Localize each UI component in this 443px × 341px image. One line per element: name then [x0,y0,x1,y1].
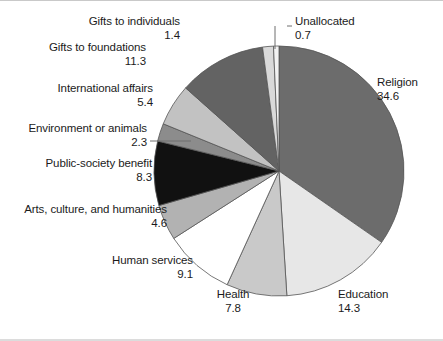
slice-label-name: Human services [0,254,193,268]
slice-label-value: 1.4 [0,29,180,43]
slice-label-arts-culture-and-humanities: Arts, culture, and humanities 4.6 [0,203,167,230]
slice-label-human-services: Human services 9.1 [0,254,193,281]
slice-label-name: Unallocated [295,15,435,29]
slice-label-value: 5.4 [0,96,153,110]
slice-label-religion: Religion 34.6 [377,76,443,103]
pie-chart-figure: Gifts to individuals 1.4 Unallocated 0.7… [0,0,443,341]
slice-label-value: 2.3 [0,136,147,150]
slice-label-education: Education 14.3 [338,288,438,315]
slice-label-value: 9.1 [0,268,193,282]
slice-label-name: Religion [377,76,443,90]
slice-label-value: 4.6 [0,217,167,231]
slice-label-name: Health [198,288,268,302]
slice-label-international-affairs: International affairs 5.4 [0,82,153,109]
slice-label-name: Gifts to foundations [0,41,146,55]
slice-label-gifts-to-individuals: Gifts to individuals 1.4 [0,15,180,42]
slice-label-name: Arts, culture, and humanities [0,203,167,217]
slice-label-value: 8.3 [0,171,152,185]
slice-label-unallocated: Unallocated 0.7 [295,15,435,42]
slice-label-name: Environment or animals [0,122,147,136]
slice-label-value: 11.3 [0,55,146,69]
slice-label-environment-or-animals: Environment or animals 2.3 [0,122,147,149]
slice-label-name: Gifts to individuals [0,15,180,29]
slice-label-gifts-to-foundations: Gifts to foundations 11.3 [0,41,146,68]
slice-label-value: 0.7 [295,29,435,43]
slice-label-value: 34.6 [377,90,443,104]
slice-label-value: 7.8 [198,302,268,316]
slice-label-name: Public-society benefit [0,157,152,171]
slice-label-health: Health 7.8 [198,288,268,315]
slice-label-value: 14.3 [338,302,438,316]
slice-label-name: International affairs [0,82,153,96]
slice-label-name: Education [338,288,438,302]
slice-label-public-society-benefit: Public-society benefit 8.3 [0,157,152,184]
